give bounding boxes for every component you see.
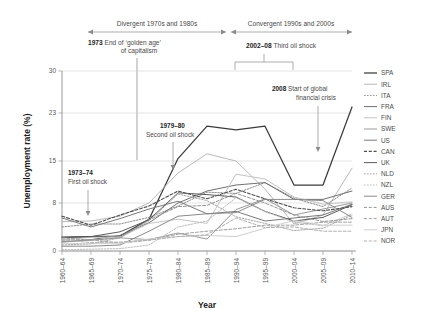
xtick-label-10: 2010–14 [349, 258, 356, 284]
annotation-second-oil-shock: 1979–80Second oil shock [146, 122, 195, 170]
y-axis-title: Unemployment rate (%) [22, 113, 32, 208]
annotation-third-oil-shock: 2002–08 Third oil shock [235, 42, 317, 70]
ytick-label-0: 0 [52, 247, 56, 254]
ytick-label-8: 8 [52, 199, 56, 206]
xtick-label-9: 2005–09 [320, 258, 327, 284]
legend-label-SPA: SPA [381, 69, 394, 76]
series-line-SPA [62, 107, 352, 237]
first-oil-shock-arrow-head [86, 211, 91, 216]
second-oil-shock-label-line2: Second oil shock [146, 131, 195, 138]
second-oil-shock-arrow-head [171, 165, 176, 170]
legend-label-IRL: IRL [381, 81, 391, 88]
divergent-arrow-head-left [88, 30, 93, 35]
legend-label-UK: UK [381, 159, 391, 166]
xtick-label-0: 1960–64 [59, 258, 66, 284]
convergent-arrow-head-right [347, 30, 352, 35]
legend-label-NLD: NLD [381, 170, 394, 177]
legend-label-AUS: AUS [381, 204, 394, 211]
legend-label-JPN: JPN [381, 226, 393, 233]
financial-crisis-label-line2: financial crisis [296, 94, 336, 101]
second-oil-shock-label: 1979–80 [160, 122, 185, 129]
legend-label-FIN: FIN [381, 114, 392, 121]
xtick-label-5: 1985–89 [204, 258, 211, 284]
ytick-label-23: 23 [49, 109, 57, 116]
annotation-convergent: Convergent 1990s and 2000s [231, 20, 352, 34]
financial-crisis-arrow-head [316, 147, 321, 152]
xtick-label-2: 1970–74 [117, 258, 124, 284]
xtick-label-3: 1975–79 [146, 258, 153, 284]
legend-label-US: US [381, 137, 390, 144]
unemployment-rate-chart: Divergent 1970s and 1980sConvergent 1990… [0, 0, 435, 319]
legend: SPAIRLITAFRAFINSWEUSCANUKNLDNZLGERAUSAUT… [364, 69, 396, 244]
legend-label-GER: GER [381, 193, 395, 200]
golden-age-label: 1973 End of ‘golden age’ [88, 39, 162, 47]
annotation-golden-age: 1973 End of ‘golden age’of capitalism [88, 39, 162, 160]
xtick-label-4: 1980–84 [175, 258, 182, 284]
legend-label-SWE: SWE [381, 125, 396, 132]
first-oil-shock-label: 1973–74 [68, 169, 93, 176]
financial-crisis-label: 2008 Start of global [272, 85, 327, 93]
chart-svg: Divergent 1970s and 1980sConvergent 1990… [0, 0, 435, 319]
annotation-first-oil-shock: 1973–74First oil shock [68, 169, 108, 216]
divergent-arrow-head-right [221, 30, 226, 35]
first-oil-shock-label-line2: First oil shock [68, 178, 108, 185]
annotation-divergent: Divergent 1970s and 1980s [88, 20, 226, 34]
third-oil-shock-label: 2002–08 Third oil shock [246, 42, 317, 49]
ytick-label-15: 15 [49, 157, 57, 164]
xtick-label-1: 1965–69 [88, 258, 95, 284]
legend-label-CAN: CAN [381, 148, 395, 155]
legend-label-AUT: AUT [381, 215, 394, 222]
xtick-label-6: 1990–94 [233, 258, 240, 284]
y-axis: Unemployment rate (%) [22, 71, 62, 251]
golden-age-label-line2: of capitalism [121, 47, 158, 55]
x-axis-title: Year [198, 300, 217, 310]
legend-label-ITA: ITA [381, 92, 391, 99]
legend-label-FRA: FRA [381, 103, 395, 110]
xtick-label-7: 1995–99 [262, 258, 269, 284]
legend-label-NOR: NOR [381, 237, 396, 244]
series-line-AUT [62, 222, 352, 243]
xtick-label-8: 2000–04 [291, 258, 298, 284]
annotation-financial-crisis: 2008 Start of globalfinancial crisis [272, 85, 336, 152]
divergent-label: Divergent 1970s and 1980s [117, 20, 198, 28]
convergent-label: Convergent 1990s and 2000s [248, 20, 335, 28]
convergent-arrow-head-left [231, 30, 236, 35]
ytick-label-30: 30 [49, 67, 57, 74]
x-axis: 1960–641965–691970–741975–791980–841985–… [59, 251, 356, 310]
third-oil-shock-bracket [235, 62, 293, 70]
legend-label-NZL: NZL [381, 181, 394, 188]
